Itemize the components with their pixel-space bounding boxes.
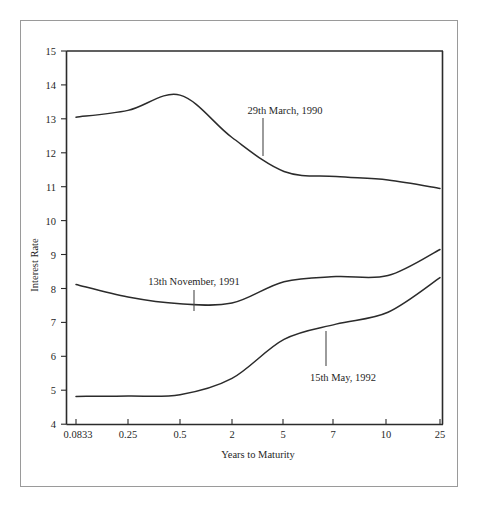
y-axis-title: Interest Rate: [29, 238, 40, 292]
y-axis-ticks: [61, 51, 67, 424]
y-tick-label-8: 8: [51, 284, 56, 295]
y-tick-label-9: 9: [51, 250, 56, 261]
y-tick-label-7: 7: [51, 317, 56, 328]
y-tick-label-11: 11: [46, 182, 56, 193]
x-tick-label-0: 0.0833: [64, 429, 93, 440]
x-tick-label-6: 10: [381, 429, 392, 440]
series-line-1991: [76, 249, 440, 305]
x-tick-label-3: 2: [229, 429, 234, 440]
x-tick-label-7: 25: [435, 429, 446, 440]
y-tick-label-4: 4: [51, 419, 57, 430]
y-tick-label-13: 13: [46, 114, 57, 125]
x-axis-tick-labels: 0.0833 0.25 0.5 2 5 7 10 25: [64, 429, 446, 440]
x-tick-label-1: 0.25: [119, 429, 137, 440]
chart-series-group: [76, 94, 440, 396]
y-axis-tick-labels: 15 14 13 12 11 10 9 8 7 6 5 4: [46, 46, 57, 430]
y-tick-label-6: 6: [51, 351, 56, 362]
x-tick-label-2: 0.5: [173, 429, 186, 440]
annotation-labels: 29th March, 1990 13th November, 1991 15t…: [148, 105, 376, 383]
annotation-label-1991: 13th November, 1991: [148, 276, 239, 287]
annotation-label-1990: 29th March, 1990: [248, 105, 323, 116]
y-tick-label-10: 10: [46, 216, 57, 227]
chart-canvas: 15 14 13 12 11 10 9 8 7 6 5 4 Interest R…: [0, 0, 479, 507]
series-line-1992: [76, 278, 440, 397]
annotation-leader-lines: [194, 118, 326, 366]
y-tick-label-5: 5: [51, 385, 56, 396]
x-tick-label-4: 5: [280, 429, 285, 440]
y-tick-label-15: 15: [46, 46, 57, 57]
y-tick-label-12: 12: [46, 148, 57, 159]
x-tick-label-5: 7: [330, 429, 335, 440]
x-axis-ticks: [76, 419, 440, 425]
yield-curve-figure: 15 14 13 12 11 10 9 8 7 6 5 4 Interest R…: [0, 0, 479, 507]
x-axis-title: Years to Maturity: [221, 449, 295, 460]
annotation-label-1992: 15th May, 1992: [310, 372, 376, 383]
y-tick-label-14: 14: [46, 80, 57, 91]
